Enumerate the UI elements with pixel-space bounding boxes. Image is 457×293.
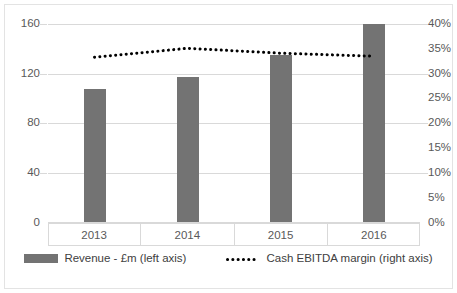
gridline-tick-right-120 <box>420 74 428 75</box>
legend-dotted-line-swatch-icon <box>226 254 260 263</box>
right-axis-label-35pct: 35% <box>428 43 451 55</box>
gridline-tick-right-40 <box>420 173 428 174</box>
gridline-tick-right-80 <box>420 123 428 124</box>
left-axis-label-120: 120 <box>21 68 40 80</box>
chart-legend: Revenue - £m (left axis) Cash EBITDA mar… <box>0 252 457 264</box>
legend-item-margin[interactable]: Cash EBITDA margin (right axis) <box>226 252 432 264</box>
gridline-tick-left-40 <box>39 173 47 174</box>
gridline-tick-left-80 <box>39 123 47 124</box>
legend-item-revenue[interactable]: Revenue - £m (left axis) <box>24 252 186 264</box>
legend-bar-swatch-icon <box>24 254 58 263</box>
category-axis: 2013 2014 2015 2016 <box>48 223 420 246</box>
category-label-2016: 2016 <box>328 224 420 245</box>
category-label-2013: 2013 <box>48 224 141 245</box>
gridline-tick-right-160 <box>420 24 428 25</box>
left-axis-label-160: 160 <box>21 18 40 30</box>
plot-area <box>48 24 420 222</box>
right-axis-label-30pct: 30% <box>428 68 451 80</box>
legend-label-revenue: Revenue - £m (left axis) <box>64 252 186 264</box>
cash-ebitda-margin-line <box>95 48 374 57</box>
chart-container: 160 120 80 40 0 40% 35% 30% 25% 20% 15% … <box>0 0 457 293</box>
gridline-tick-left-120 <box>39 74 47 75</box>
right-axis-label-20pct: 20% <box>428 117 451 129</box>
category-label-2015: 2015 <box>235 224 328 245</box>
left-axis-label-0: 0 <box>34 217 40 229</box>
right-axis-label-5pct: 5% <box>428 192 445 204</box>
legend-label-margin: Cash EBITDA margin (right axis) <box>266 252 432 264</box>
category-label-2014: 2014 <box>141 224 234 245</box>
gridline-tick-left-160 <box>39 24 47 25</box>
right-axis-label-25pct: 25% <box>428 92 451 104</box>
right-axis-label-40pct: 40% <box>428 18 451 30</box>
margin-line-layer <box>48 24 420 222</box>
right-axis-label-15pct: 15% <box>428 142 451 154</box>
right-axis-label-10pct: 10% <box>428 167 451 179</box>
right-axis-label-0pct: 0% <box>428 217 445 229</box>
